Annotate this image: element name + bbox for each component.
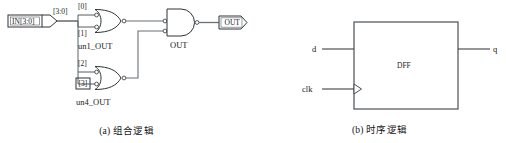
bit-tap-label-2: [2] bbox=[78, 60, 87, 68]
gate-label-un4-out: un4_OUT bbox=[76, 98, 110, 107]
bus-width-label: [3:0] bbox=[53, 8, 68, 16]
dff-input-label-clk: clk bbox=[302, 85, 312, 94]
gate-un1-out-shape bbox=[95, 10, 167, 33]
caption-panel-a: (a) 组合逻辑 bbox=[0, 123, 253, 137]
gate-out-shape bbox=[167, 9, 219, 36]
dff-block-label: DFF bbox=[397, 62, 411, 70]
caption-panel-b: (b) 时序逻辑 bbox=[253, 122, 506, 136]
wire-un4-to-and bbox=[126, 31, 163, 78]
gate-label-un1-out: un1_OUT bbox=[78, 42, 112, 51]
bit-tap-label-3: [3] bbox=[79, 80, 88, 88]
combinational-logic-schematic bbox=[0, 0, 253, 143]
input-port-label: IN[3:0] bbox=[12, 18, 35, 26]
gate-label-out: OUT bbox=[170, 41, 187, 50]
bit-tap-wires-top bbox=[78, 15, 95, 27]
bit-tap-label-1: [1] bbox=[78, 30, 87, 38]
panel-combinational-logic: IN[3:0] [3:0] [0] [1] [2] [3] un1_OUT un… bbox=[0, 0, 253, 143]
gate-un4-out-shape bbox=[95, 67, 126, 90]
bit-tap-label-0: [0] bbox=[78, 3, 87, 11]
output-port-label: OUT bbox=[225, 19, 240, 27]
dff-input-label-d: d bbox=[312, 45, 316, 54]
panel-sequential-logic: d clk q DFF (b) 时序逻辑 bbox=[253, 0, 506, 143]
figure-root: IN[3:0] [3:0] [0] [1] [2] [3] un1_OUT un… bbox=[0, 0, 506, 143]
dff-output-label-q: q bbox=[493, 45, 497, 54]
